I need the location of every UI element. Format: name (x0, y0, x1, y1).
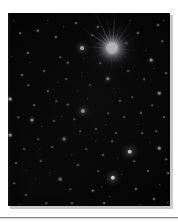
field-star (13, 182, 15, 184)
field-star (71, 202, 73, 204)
field-star (87, 98, 88, 99)
field-star (11, 56, 12, 57)
figure-divider-rule-soft (0, 218, 178, 219)
field-star (29, 62, 30, 63)
field-star (77, 164, 79, 166)
field-star (163, 116, 165, 118)
field-star (19, 32, 21, 34)
diffraction-spike (112, 48, 125, 73)
field-star (103, 202, 105, 204)
field-star (71, 154, 72, 155)
field-star (159, 184, 160, 185)
field-star (106, 77, 109, 80)
field-star (33, 104, 35, 106)
field-star (80, 46, 84, 50)
field-star (37, 30, 39, 32)
field-star (140, 112, 142, 114)
field-star (37, 138, 39, 140)
field-star (69, 188, 71, 190)
field-star (47, 20, 48, 21)
field-star (63, 26, 64, 27)
field-star (111, 140, 113, 142)
field-star (27, 84, 29, 86)
field-star (13, 20, 14, 21)
field-star (165, 72, 167, 74)
field-star (91, 34, 93, 36)
star-core (108, 44, 117, 53)
field-star (81, 109, 85, 113)
primary-bright-star (112, 48, 113, 49)
field-star (79, 130, 81, 132)
field-star (113, 88, 114, 89)
diffraction-spike (112, 48, 135, 64)
field-star (143, 78, 145, 80)
field-star (59, 56, 61, 58)
field-star (17, 116, 19, 118)
field-star (129, 20, 130, 21)
diffraction-spike (87, 48, 112, 61)
field-star (65, 78, 67, 80)
field-star (141, 132, 143, 134)
field-star (81, 72, 82, 73)
field-star (115, 132, 117, 134)
field-star (59, 178, 62, 181)
field-star (111, 176, 115, 180)
star-field-image (8, 13, 170, 206)
field-star (25, 194, 27, 196)
field-star (161, 40, 163, 42)
field-star (150, 59, 153, 62)
page-canvas: Dark astronomical star field photograph … (0, 0, 178, 222)
field-star (39, 148, 40, 149)
field-star (67, 104, 69, 106)
plate-vignette (8, 13, 170, 206)
field-star (45, 202, 47, 204)
field-star (105, 124, 106, 125)
field-star (147, 170, 149, 172)
figure-star-field: Dark astronomical star field photograph … (0, 0, 178, 212)
field-star (40, 160, 42, 162)
field-star (83, 58, 84, 59)
diffraction-spike (112, 32, 131, 49)
field-star (101, 186, 102, 187)
field-star (95, 140, 96, 141)
field-star (133, 160, 135, 162)
field-star (51, 146, 53, 148)
field-star (109, 196, 110, 197)
field-star (27, 52, 29, 54)
field-star (19, 204, 20, 205)
diffraction-spike (92, 13, 112, 48)
diffraction-spike (105, 48, 112, 67)
field-star (23, 148, 25, 150)
field-star (55, 100, 57, 102)
field-star (25, 170, 26, 171)
star-halo (97, 33, 127, 63)
field-star (49, 172, 50, 173)
field-star (167, 202, 168, 203)
field-star (21, 74, 23, 76)
field-star (57, 82, 58, 83)
diffraction-spike (112, 44, 132, 49)
field-star (123, 116, 125, 118)
field-star (15, 162, 17, 164)
field-star (137, 32, 139, 34)
diffraction-spike (110, 48, 113, 75)
field-star (73, 118, 75, 120)
field-star (63, 138, 66, 141)
field-star (97, 26, 99, 28)
field-star (127, 70, 129, 72)
field-star (153, 198, 155, 200)
diffraction-spike (112, 48, 131, 55)
field-star (35, 178, 36, 179)
diffraction-spike (91, 48, 112, 53)
diffraction-spike (105, 17, 112, 48)
field-star (61, 116, 62, 117)
field-star (137, 124, 138, 125)
field-star (149, 142, 150, 143)
field-star (155, 130, 157, 132)
diffraction-spike (112, 17, 134, 48)
field-star (167, 172, 169, 174)
field-star (158, 92, 161, 95)
field-star (67, 62, 69, 64)
field-star (119, 100, 121, 102)
field-star (85, 148, 87, 150)
